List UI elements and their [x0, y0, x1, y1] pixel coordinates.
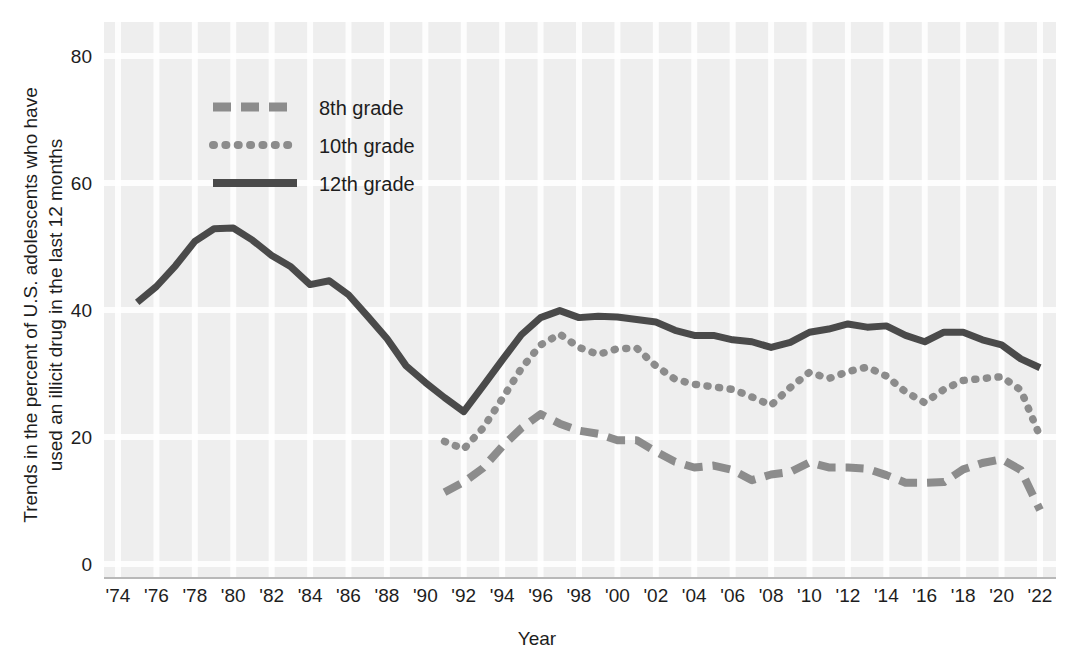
x-axis-tick-label: '22	[1028, 585, 1053, 606]
x-axis-tick-label: '98	[567, 585, 592, 606]
x-axis-tick-label: '18	[951, 585, 976, 606]
x-axis-tick-label: '12	[836, 585, 861, 606]
line-chart: 020406080 '74'76'78'80'82'84'86'88'90'92…	[0, 0, 1074, 661]
y-axis-title-line-1: Trends in the percent of U.S. adolescent…	[20, 87, 41, 523]
x-axis-tick-labels: '74'76'78'80'82'84'86'88'90'92'94'96'98'…	[106, 585, 1053, 606]
x-axis-tick-label: '00	[605, 585, 630, 606]
y-axis-tick-label: 20	[71, 427, 92, 448]
x-axis-tick-label: '92	[451, 585, 476, 606]
y-axis-tick-label: 80	[71, 46, 92, 67]
x-axis-tick-label: '76	[144, 585, 169, 606]
x-axis-tick-label: '20	[989, 585, 1014, 606]
legend-label-10th-grade: 10th grade	[319, 135, 415, 157]
x-axis-tick-label: '04	[682, 585, 707, 606]
chart-figure: 020406080 '74'76'78'80'82'84'86'88'90'92…	[0, 0, 1074, 661]
x-axis-tick-label: '94	[490, 585, 515, 606]
x-axis-tick-label: '86	[336, 585, 361, 606]
x-axis-tick-label: '84	[298, 585, 323, 606]
x-axis-tick-label: '88	[375, 585, 400, 606]
x-axis-tick-label: '02	[643, 585, 668, 606]
y-axis-tick-labels: 020406080	[71, 46, 92, 575]
x-axis-tick-label: '16	[912, 585, 937, 606]
legend-label-12th-grade: 12th grade	[319, 173, 415, 195]
y-axis-tick-label: 60	[71, 173, 92, 194]
x-axis-tick-label: '06	[720, 585, 745, 606]
x-axis-tick-label: '90	[413, 585, 438, 606]
x-axis-tick-label: '08	[759, 585, 784, 606]
x-axis-tick-label: '74	[106, 585, 131, 606]
y-axis-tick-label: 40	[71, 300, 92, 321]
x-axis-tick-label: '14	[874, 585, 899, 606]
x-axis-tick-label: '82	[259, 585, 284, 606]
x-axis-title: Year	[518, 628, 557, 649]
legend-label-8th-grade: 8th grade	[319, 97, 404, 119]
x-axis-tick-label: '96	[528, 585, 553, 606]
x-axis-tick-label: '78	[182, 585, 207, 606]
x-axis-tick-label: '80	[221, 585, 246, 606]
y-axis-tick-label: 0	[81, 554, 92, 575]
x-axis-tick-label: '10	[797, 585, 822, 606]
y-axis-title-line-2: used an illicit drug in the last 12 mont…	[45, 139, 66, 472]
